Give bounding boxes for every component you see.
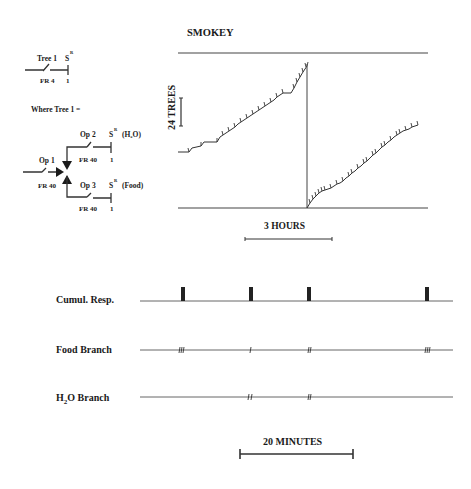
- tree-marks-2: [309, 121, 418, 203]
- tree-fr: FR 4: [40, 77, 55, 85]
- event-records: Cumul. Resp. Food Branch H2O Branch 20 M…: [56, 287, 453, 459]
- h2o-branch-label: H2O Branch: [56, 392, 110, 406]
- smokey-chart: SMOKEY 24 TREES 3 HOURS: [166, 27, 428, 241]
- where-label: Where Tree 1 =: [31, 105, 80, 114]
- op1-label: Op 1: [39, 156, 55, 165]
- tree-switch-line: [25, 64, 68, 75]
- burst-2: [249, 287, 253, 301]
- x-scale-bar: [245, 237, 332, 241]
- burst-4: [425, 287, 429, 301]
- op2-fr: FR 40: [79, 156, 98, 164]
- record-segment-2: [307, 125, 418, 208]
- op2-outcome: (H₂O): [122, 130, 141, 139]
- tree-count: 1: [66, 77, 70, 85]
- burst-3: [307, 287, 311, 301]
- tree-schedule-diagram: Tree 1 S R FR 4 1 Where Tree 1 = Op 2 S …: [23, 50, 144, 213]
- op1-fr: FR 40: [38, 182, 57, 190]
- op3-outcome: (Food): [122, 181, 144, 190]
- y-scale-bar: [179, 98, 183, 126]
- tree-reinforcer-sup: R: [70, 50, 74, 55]
- op3-label: Op 3: [80, 181, 96, 190]
- figure: Tree 1 S R FR 4 1 Where Tree 1 = Op 2 S …: [0, 0, 471, 489]
- food-branch-label: Food Branch: [56, 344, 112, 355]
- op2-count: 1: [110, 156, 114, 164]
- y-scale-label: 24 TREES: [166, 84, 177, 130]
- response-bursts: [181, 287, 429, 301]
- op2-branch-line: [67, 142, 111, 168]
- op2-reinforcer-sup: R: [114, 127, 118, 132]
- time-scale-label: 20 MINUTES: [263, 436, 323, 447]
- op3-count: 1: [110, 205, 114, 213]
- op3-reinforcer-sup: R: [114, 178, 118, 183]
- tree-reinforcer: S: [65, 54, 69, 63]
- burst-1: [181, 287, 185, 301]
- tree-marks-1: [188, 62, 308, 152]
- cumul-resp-label: Cumul. Resp.: [56, 294, 115, 305]
- op2-reinforcer: S: [109, 130, 113, 139]
- op1-arrow-icon: [56, 167, 64, 177]
- record-segment-1: [178, 66, 307, 152]
- op2-label: Op 2: [80, 130, 96, 139]
- time-scale-bar: [240, 449, 353, 459]
- down-arrow-icon: [62, 161, 72, 170]
- op3-reinforcer: S: [109, 181, 113, 190]
- op3-fr: FR 40: [79, 205, 98, 213]
- chart-title: SMOKEY: [187, 27, 234, 38]
- x-scale-label: 3 HOURS: [264, 221, 305, 231]
- op1-line: [23, 168, 58, 172]
- tree-label: Tree 1: [37, 54, 57, 63]
